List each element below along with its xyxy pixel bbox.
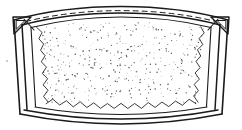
stray-speck — [6, 60, 8, 62]
mesh-panel — [34, 20, 210, 109]
figure-container: Trapezoidal framed mesh panel — [0, 0, 242, 130]
technical-line-drawing — [0, 0, 242, 130]
